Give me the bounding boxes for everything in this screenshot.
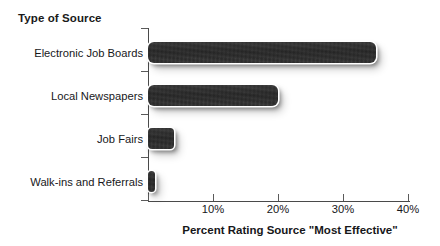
x-tick-label-30: 30%: [321, 203, 365, 215]
x-axis-tick: [278, 194, 279, 201]
x-tick-label-40: 40%: [386, 203, 430, 215]
x-tick-label-10: 10%: [191, 203, 235, 215]
category-label-walk-ins-and-referrals: Walk-ins and Referrals: [30, 176, 143, 188]
x-axis-title: Percent Rating Source "Most Effective": [148, 224, 432, 236]
y-axis-tick: [141, 157, 148, 158]
x-axis-tick: [213, 194, 214, 201]
bar-walk-ins-and-referrals: [148, 171, 155, 192]
y-axis-tick: [141, 200, 148, 201]
category-label-local-newspapers: Local Newspapers: [51, 90, 143, 102]
y-axis-tick: [141, 114, 148, 115]
y-axis-tick: [141, 71, 148, 72]
category-label-job-fairs: Job Fairs: [97, 133, 143, 145]
x-axis-tick: [408, 194, 409, 201]
x-axis-tick: [343, 194, 344, 201]
bar-local-newspapers: [148, 85, 278, 106]
bar-job-fairs: [148, 128, 174, 149]
bar-chart: Type of Source Electronic Job Boards Loc…: [0, 0, 440, 246]
category-label-electronic-job-boards: Electronic Job Boards: [34, 47, 143, 59]
bar-electronic-job-boards: [148, 42, 376, 63]
y-axis-title: Type of Source: [18, 12, 102, 24]
y-axis-tick: [141, 28, 148, 29]
x-axis-tick: [148, 194, 149, 201]
x-tick-label-20: 20%: [256, 203, 300, 215]
